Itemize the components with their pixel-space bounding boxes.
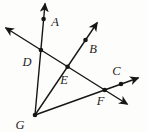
geometry-svg: ABCDEFG [0,0,148,132]
point-label-G: G [15,118,24,132]
geometry-figure: ABCDEFG [0,0,148,132]
point-label-F: F [96,94,105,108]
point-dot-A [41,17,46,22]
point-dot-D [39,48,44,53]
point-dot-E [65,64,70,69]
point-label-D: D [21,55,31,69]
point-dot-F [102,88,107,93]
point-label-E: E [59,73,68,87]
point-label-A: A [50,15,59,29]
point-label-B: B [89,42,97,56]
point-dot-G [33,113,38,118]
point-dot-B [83,38,88,43]
point-label-C: C [112,64,121,78]
ray-G-through-E-to-B [35,23,97,115]
point-dot-C [119,82,124,87]
